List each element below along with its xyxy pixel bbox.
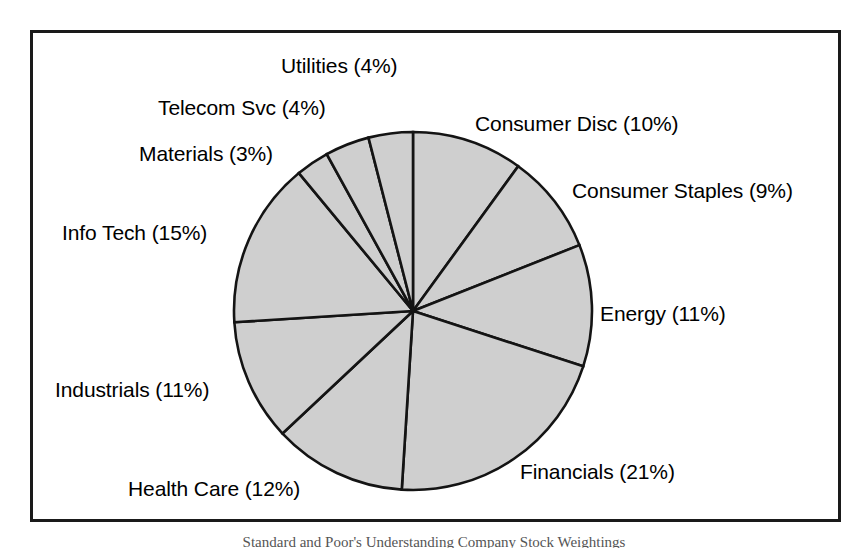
pie-slices-group (234, 132, 592, 490)
pie-label-materials: Materials (3%) (139, 143, 273, 164)
pie-label-consumer-staples: Consumer Staples (9%) (572, 180, 793, 201)
pie-label-info-tech: Info Tech (15%) (62, 222, 207, 243)
pie-label-telecom-svc: Telecom Svc (4%) (158, 97, 326, 118)
pie-label-consumer-disc: Consumer Disc (10%) (475, 113, 679, 134)
figure-caption: Standard and Poor's Understanding Compan… (0, 534, 868, 548)
figure-caption-clip: Standard and Poor's Understanding Compan… (0, 534, 868, 548)
pie-label-utilities: Utilities (4%) (281, 55, 397, 76)
pie-label-industrials: Industrials (11%) (55, 379, 209, 400)
pie-label-financials: Financials (21%) (520, 461, 675, 482)
pie-chart-figure: Utilities (4%) Telecom Svc (4%) Material… (0, 0, 868, 548)
pie-chart-graphic (0, 0, 868, 548)
pie-label-energy: Energy (11%) (600, 303, 726, 324)
pie-label-health-care: Health Care (12%) (128, 478, 300, 499)
